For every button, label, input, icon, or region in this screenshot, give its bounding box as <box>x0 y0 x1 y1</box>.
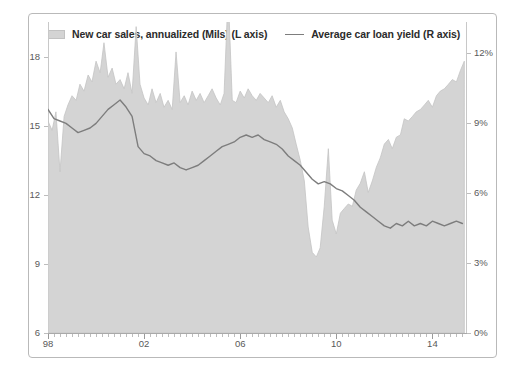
x-axis-minor-tick <box>396 334 397 337</box>
y-axis-right-tick <box>467 263 471 264</box>
x-axis-minor-tick <box>360 334 361 337</box>
x-axis-minor-tick <box>150 334 151 337</box>
x-axis-minor-tick <box>162 334 163 337</box>
x-axis-minor-tick <box>114 334 115 337</box>
x-axis-minor-tick <box>174 334 175 337</box>
y-axis-right-label: 3% <box>474 257 488 268</box>
x-axis-minor-tick <box>84 334 85 337</box>
x-axis-minor-tick <box>372 334 373 337</box>
x-axis-minor-tick <box>270 334 271 337</box>
y-axis-right-line <box>466 22 467 334</box>
x-axis-minor-tick <box>462 334 463 337</box>
y-axis-right-label: 6% <box>474 187 488 198</box>
x-axis-minor-tick <box>66 334 67 337</box>
y-axis-left-tick <box>44 126 48 127</box>
x-axis-minor-tick <box>186 334 187 337</box>
x-axis-minor-tick <box>282 334 283 337</box>
x-axis-label: 98 <box>33 338 63 349</box>
x-axis-minor-tick <box>402 334 403 337</box>
x-axis-minor-tick <box>306 334 307 337</box>
x-axis-minor-tick <box>444 334 445 337</box>
y-axis-right-tick <box>467 193 471 194</box>
y-axis-right-label: 0% <box>474 327 488 338</box>
y-axis-left-label: 15 <box>18 120 40 131</box>
x-axis-minor-tick <box>414 334 415 337</box>
x-axis-minor-tick <box>252 334 253 337</box>
x-axis-minor-tick <box>78 334 79 337</box>
x-axis-minor-tick <box>96 334 97 337</box>
x-axis-minor-tick <box>420 334 421 337</box>
x-axis-minor-tick <box>90 334 91 337</box>
area-series-new-car-sales <box>48 22 464 333</box>
x-axis-minor-tick <box>354 334 355 337</box>
x-axis-minor-tick <box>366 334 367 337</box>
y-axis-left-label: 12 <box>18 189 40 200</box>
x-axis-minor-tick <box>276 334 277 337</box>
x-axis-minor-tick <box>294 334 295 337</box>
x-axis-label: 14 <box>417 338 447 349</box>
x-axis-minor-tick <box>126 334 127 337</box>
x-axis-minor-tick <box>138 334 139 337</box>
x-axis-minor-tick <box>300 334 301 337</box>
x-axis-minor-tick <box>204 334 205 337</box>
x-axis-minor-tick <box>426 334 427 337</box>
x-axis-minor-tick <box>330 334 331 337</box>
y-axis-right-label: 9% <box>474 117 488 128</box>
x-axis-minor-tick <box>222 334 223 337</box>
y-axis-right-label: 12% <box>474 47 493 58</box>
x-axis-minor-tick <box>384 334 385 337</box>
y-axis-right-tick <box>467 123 471 124</box>
x-axis-minor-tick <box>378 334 379 337</box>
y-axis-left-label: 6 <box>18 327 40 338</box>
x-axis-minor-tick <box>210 334 211 337</box>
x-axis-minor-tick <box>228 334 229 337</box>
x-axis-minor-tick <box>234 334 235 337</box>
x-axis-minor-tick <box>54 334 55 337</box>
x-axis-minor-tick <box>132 334 133 337</box>
x-axis-minor-tick <box>198 334 199 337</box>
y-axis-left-tick <box>44 195 48 196</box>
x-axis-minor-tick <box>342 334 343 337</box>
x-axis-minor-tick <box>168 334 169 337</box>
x-axis-minor-tick <box>348 334 349 337</box>
y-axis-left-label: 18 <box>18 51 40 62</box>
plot-svg <box>48 22 466 333</box>
x-axis-minor-tick <box>60 334 61 337</box>
x-axis-minor-tick <box>120 334 121 337</box>
y-axis-left-tick <box>44 57 48 58</box>
y-axis-left-label: 9 <box>18 258 40 269</box>
x-axis-label: 06 <box>225 338 255 349</box>
x-axis-minor-tick <box>288 334 289 337</box>
x-axis-minor-tick <box>258 334 259 337</box>
x-axis-minor-tick <box>456 334 457 337</box>
x-axis-minor-tick <box>264 334 265 337</box>
x-axis-minor-tick <box>450 334 451 337</box>
x-axis-minor-tick <box>390 334 391 337</box>
x-axis-minor-tick <box>324 334 325 337</box>
x-axis-minor-tick <box>318 334 319 337</box>
x-axis-minor-tick <box>438 334 439 337</box>
chart-figure: New car sales, annualized (Mils) (L axis… <box>0 0 519 376</box>
x-axis-label: 02 <box>129 338 159 349</box>
x-axis-minor-tick <box>72 334 73 337</box>
x-axis-minor-tick <box>192 334 193 337</box>
x-axis-minor-tick <box>408 334 409 337</box>
x-axis-minor-tick <box>102 334 103 337</box>
y-axis-left-tick <box>44 264 48 265</box>
plot-area <box>48 22 466 333</box>
x-axis-minor-tick <box>312 334 313 337</box>
x-axis-label: 10 <box>321 338 351 349</box>
x-axis-minor-tick <box>216 334 217 337</box>
x-axis-minor-tick <box>108 334 109 337</box>
x-axis-minor-tick <box>246 334 247 337</box>
y-axis-right-tick <box>467 53 471 54</box>
y-axis-right-tick <box>467 333 471 334</box>
x-axis-minor-tick <box>156 334 157 337</box>
x-axis-minor-tick <box>180 334 181 337</box>
